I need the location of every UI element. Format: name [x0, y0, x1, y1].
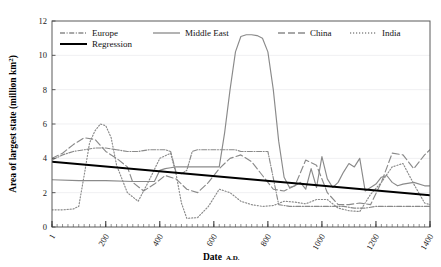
legend-label: Europe [92, 28, 118, 38]
legend-label: Regression [92, 39, 132, 49]
chart-canvas: 024681012 1200400600800100012001400 Area… [0, 0, 441, 267]
y-axis-title-paren: ) [8, 55, 19, 58]
y-tick-label: 4 [43, 153, 48, 163]
x-axis-title-text: Date [203, 252, 222, 262]
x-tick-label: 1200 [364, 232, 381, 252]
y-axis-title-text: Area of largest state (million km [8, 62, 19, 193]
y-tick-label: 0 [43, 222, 47, 232]
y-tick-label: 12 [39, 16, 48, 26]
figure-container: 024681012 1200400600800100012001400 Area… [0, 0, 441, 267]
svg-text:Area of largest state (million: Area of largest state (million km2) [7, 55, 19, 193]
x-tick-label: 400 [150, 232, 165, 248]
figure-title [0, 0, 441, 5]
y-tick-label: 2 [43, 188, 47, 198]
legend-label: India [382, 28, 401, 38]
x-tick-label: 1000 [310, 232, 327, 252]
x-axis-title: Date A.D. [203, 252, 240, 262]
x-tick-label: 600 [204, 232, 219, 248]
x-tick-label: 800 [258, 232, 273, 248]
legend-label: China [310, 28, 332, 38]
x-tick-label: 1 [46, 232, 57, 241]
y-tick-label: 8 [43, 85, 47, 95]
y-axis-title: Area of largest state (million km2) [7, 55, 19, 193]
x-axis-title-era: A.D. [226, 254, 240, 262]
y-tick-label: 10 [39, 50, 48, 60]
legend-label: Middle East [185, 28, 229, 38]
x-tick-label: 200 [96, 232, 111, 248]
x-tick-label: 1400 [418, 232, 435, 252]
y-tick-label: 6 [43, 119, 47, 129]
